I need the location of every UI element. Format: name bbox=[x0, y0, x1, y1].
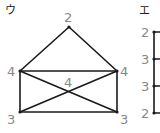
degree-label-upper-left: 4 bbox=[7, 64, 15, 79]
vertex-v4 bbox=[152, 111, 155, 114]
edge-top-upper-left bbox=[20, 27, 69, 71]
vertex-v3 bbox=[152, 84, 155, 87]
vertex-upper-left bbox=[18, 69, 21, 72]
degree-label-lower-left: 3 bbox=[7, 112, 15, 127]
panel-e: エ 2 3 3 2 bbox=[139, 4, 160, 121]
degree-label-top: 2 bbox=[64, 10, 72, 25]
panel-label-e: エ bbox=[139, 4, 150, 17]
degree-label-upper-right: 4 bbox=[120, 64, 128, 79]
degree-label-v2: 3 bbox=[141, 52, 149, 67]
degree-label-center: 4 bbox=[64, 75, 72, 90]
vertex-v2 bbox=[152, 57, 155, 60]
edge-top-upper-right bbox=[69, 27, 117, 71]
vertex-upper-right bbox=[115, 69, 118, 72]
graph-diagrams: ウ 2 4 4 3 3 4 エ 2 3 3 2 bbox=[0, 0, 160, 133]
vertex-lower-left bbox=[18, 110, 21, 113]
vertex-v1 bbox=[152, 30, 155, 33]
degree-label-v3: 3 bbox=[141, 79, 149, 94]
degree-label-lower-right: 3 bbox=[120, 112, 128, 127]
degree-label-v1: 2 bbox=[141, 25, 149, 40]
panel-u: ウ 2 4 4 3 3 4 bbox=[5, 4, 128, 127]
panel-label-u: ウ bbox=[5, 4, 16, 17]
degree-label-v4: 2 bbox=[141, 106, 149, 121]
vertex-top bbox=[67, 25, 70, 28]
vertex-lower-right bbox=[115, 110, 118, 113]
